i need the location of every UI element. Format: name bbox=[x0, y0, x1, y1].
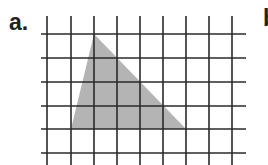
grid-diagram bbox=[0, 0, 268, 165]
